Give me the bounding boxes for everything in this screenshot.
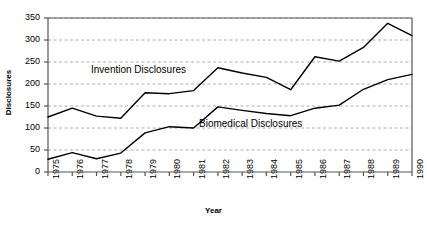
x-axis-ticks [48,172,412,176]
disclosures-line-chart: Disclosures Year 05010015020025030035019… [0,0,427,225]
series-label-invention-disclosures: Invention Disclosures [91,64,186,75]
axis-lines [44,18,412,172]
plot-area [0,0,427,225]
gridlines [48,18,412,150]
series-lines [48,23,412,159]
series-label-biomedical-disclosures: Biomedical Disclosures [199,118,302,129]
